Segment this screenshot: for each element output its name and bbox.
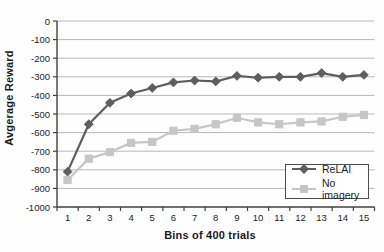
x-axis-title: Bins of 400 trials — [110, 229, 310, 241]
no-imagery-marker — [64, 176, 71, 183]
line-chart-plot: 0-100-200-300-400-500-600-700-800-900-10… — [0, 0, 384, 252]
legend-entry-no-imagery: No imagery — [291, 177, 364, 201]
y-tick-label: -400 — [31, 90, 50, 101]
no-imagery-marker — [106, 149, 113, 156]
no-imagery-marker — [360, 111, 367, 118]
x-tick-label: 3 — [107, 212, 112, 223]
x-tick-label: 9 — [234, 212, 239, 223]
y-tick-label: -900 — [31, 183, 50, 194]
x-tick-label: 1 — [65, 212, 70, 223]
y-tick-label: -700 — [31, 146, 50, 157]
relai-marker — [63, 167, 72, 176]
relai-marker — [190, 76, 199, 85]
x-tick-label: 5 — [150, 212, 155, 223]
x-tick-label: 7 — [192, 212, 197, 223]
relai-marker — [233, 71, 242, 80]
y-tick-label: -100 — [31, 34, 50, 45]
chart-figure: 0-100-200-300-400-500-600-700-800-900-10… — [0, 0, 384, 252]
x-tick-label: 6 — [171, 212, 176, 223]
x-tick-label: 13 — [316, 212, 327, 223]
legend: ReLAI No imagery — [285, 164, 369, 199]
relai-marker — [211, 77, 220, 86]
x-tick-label: 2 — [86, 212, 91, 223]
x-tick-label: 11 — [274, 212, 284, 223]
no-imagery-marker — [276, 121, 283, 128]
relai-marker — [254, 73, 263, 82]
y-tick-label: -1000 — [26, 202, 50, 213]
y-axis-title: Avgerage Reward — [3, 48, 17, 148]
y-tick-label: 0 — [45, 16, 50, 27]
no-imagery-marker — [149, 138, 156, 145]
no-imagery-marker — [297, 119, 304, 126]
no-imagery-marker — [85, 155, 92, 162]
relai-marker — [127, 89, 136, 98]
x-tick-label: 8 — [213, 212, 218, 223]
relai-line-diamond-icon — [291, 163, 317, 175]
x-tick-label: 14 — [337, 212, 348, 223]
no-imagery-marker — [127, 139, 134, 146]
x-tick-label: 10 — [253, 212, 264, 223]
no-imagery-marker — [254, 119, 261, 126]
legend-label-no-imagery: No imagery — [322, 177, 364, 201]
relai-marker — [338, 72, 347, 81]
no-imagery-marker — [318, 118, 325, 125]
x-tick-label: 4 — [128, 212, 133, 223]
no-imagery-marker — [170, 127, 177, 134]
y-tick-label: -600 — [31, 127, 50, 138]
legend-entry-relai: ReLAI — [291, 163, 364, 175]
no-imagery-marker — [212, 121, 219, 128]
relai-marker — [317, 69, 326, 78]
no-imagery-marker — [233, 114, 240, 121]
relai-marker — [148, 84, 157, 93]
y-tick-label: -300 — [31, 71, 50, 82]
relai-marker — [169, 78, 178, 87]
no-imagery-marker — [191, 125, 198, 132]
relai-marker — [360, 71, 369, 80]
x-tick-label: 12 — [295, 212, 306, 223]
y-tick-label: -200 — [31, 53, 50, 64]
legend-label-relai: ReLAI — [322, 163, 351, 175]
no-imagery-line-square-icon — [291, 183, 317, 195]
y-tick-label: -800 — [31, 164, 50, 175]
no-imagery-marker — [339, 113, 346, 120]
relai-marker — [296, 72, 305, 81]
x-tick-label: 15 — [359, 212, 370, 223]
y-tick-label: -500 — [31, 109, 50, 120]
relai-marker — [275, 72, 284, 81]
